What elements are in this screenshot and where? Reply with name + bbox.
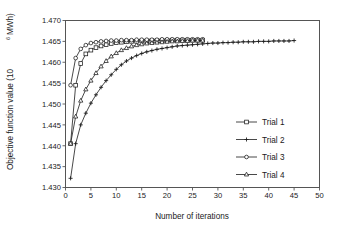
data-point-marker-plus (272, 39, 276, 43)
data-point-marker-plus (170, 45, 174, 49)
data-point-marker-plus (236, 40, 240, 44)
data-point-marker-circle-open (135, 38, 139, 42)
data-point-marker-square-open (89, 48, 93, 52)
data-point-marker-plus (155, 47, 159, 51)
legend-item-trial-1[interactable]: Trial 1 (236, 118, 285, 127)
legend-label: Trial 3 (262, 153, 285, 162)
data-point-marker-plus (216, 41, 220, 45)
x-tick-label: 40 (264, 191, 272, 200)
data-point-marker-triangle-open (124, 46, 128, 50)
legend-label: Trial 4 (262, 171, 285, 180)
x-tick-label: 30 (214, 191, 222, 200)
data-point-marker-square-open (74, 83, 78, 87)
data-point-marker-circle-open (84, 43, 88, 47)
y-tick-label: 1.450 (42, 100, 61, 109)
objective-function-convergence-chart: Objective function value (10 6 MWh) 1.43… (0, 0, 341, 226)
y-axis-title-superscript: 6 (5, 37, 11, 40)
data-point-marker-circle-open (89, 41, 93, 45)
data-point-marker-triangle-open (129, 44, 133, 48)
y-tick-label: 1.465 (42, 37, 61, 46)
x-axis-title: Number of iterations (155, 212, 229, 221)
series-line (71, 41, 295, 179)
chart-figure: Objective function value (10 6 MWh) 1.43… (0, 0, 341, 226)
data-point-marker-plus (221, 41, 225, 45)
data-point-marker-triangle-open (74, 114, 78, 118)
data-point-marker-circle-open (245, 155, 249, 159)
data-point-marker-plus (206, 41, 210, 45)
y-axis-title-tail: MWh) (6, 13, 15, 35)
data-point-marker-plus (241, 40, 245, 44)
y-tick-label: 1.445 (42, 121, 61, 130)
data-point-marker-plus (175, 44, 179, 48)
data-point-marker-circle-open (114, 39, 118, 43)
data-point-marker-triangle-open (119, 48, 123, 52)
data-point-marker-circle-open (94, 40, 98, 44)
data-point-marker-circle-open (69, 83, 73, 87)
data-point-marker-plus (185, 43, 189, 47)
data-point-marker-triangle-open (244, 172, 248, 176)
data-point-marker-plus (74, 142, 78, 146)
data-point-marker-circle-open (130, 38, 134, 42)
data-point-marker-plus (89, 101, 93, 105)
data-point-marker-square-open (79, 62, 83, 66)
data-point-marker-circle-open (120, 38, 124, 42)
data-point-marker-circle-open (109, 39, 113, 43)
data-point-marker-plus (251, 40, 255, 44)
data-point-marker-circle-open (125, 38, 129, 42)
y-axis-title: Objective function value (10 6 MWh) (5, 13, 16, 170)
data-point-marker-plus (246, 40, 250, 44)
data-point-marker-plus (180, 44, 184, 48)
data-point-marker-square-open (84, 52, 88, 56)
y-tick-label: 1.455 (42, 79, 61, 88)
data-point-marker-plus (79, 123, 83, 127)
y-tick-label: 1.470 (42, 16, 61, 25)
x-tick-label: 5 (89, 191, 93, 200)
data-point-marker-plus (135, 54, 139, 58)
data-point-marker-plus (190, 43, 194, 47)
data-point-marker-plus (231, 40, 235, 44)
data-point-marker-plus (292, 39, 296, 43)
data-point-marker-triangle-open (79, 98, 83, 102)
data-point-marker-plus (277, 39, 281, 43)
data-point-marker-plus (196, 42, 200, 46)
data-point-marker-plus (282, 39, 286, 43)
x-tick-label: 50 (315, 191, 323, 200)
data-point-marker-plus (211, 41, 215, 45)
data-point-marker-triangle-open (109, 54, 113, 58)
data-point-marker-circle-open (104, 39, 108, 43)
y-tick-label: 1.440 (42, 142, 61, 151)
x-tick-label: 15 (137, 191, 145, 200)
data-point-marker-triangle-open (84, 87, 88, 91)
data-point-marker-plus (262, 39, 266, 43)
y-tick-label: 1.430 (42, 183, 61, 192)
y-tick-label: 1.460 (42, 58, 61, 67)
x-tick-label: 25 (188, 191, 196, 200)
x-tick-label: 35 (239, 191, 247, 200)
legend-item-trial-3[interactable]: Trial 3 (236, 153, 285, 162)
chart-legend: Trial 1Trial 2Trial 3Trial 4 (236, 118, 285, 180)
x-axis-tick-labels: 05101520253035404550 (63, 191, 323, 200)
data-point-marker-plus (165, 46, 169, 50)
data-point-marker-circle-open (79, 47, 83, 51)
data-point-marker-plus (130, 56, 134, 60)
data-point-marker-plus (201, 42, 205, 46)
legend-item-trial-2[interactable]: Trial 2 (236, 136, 285, 145)
y-tick-label: 1.435 (42, 162, 61, 171)
x-tick-label: 20 (163, 191, 171, 200)
data-point-marker-plus (287, 39, 291, 43)
data-point-marker-plus (150, 49, 154, 53)
data-point-marker-plus (140, 51, 144, 55)
x-tick-label: 45 (290, 191, 298, 200)
data-point-marker-plus (69, 176, 73, 180)
data-point-marker-plus (145, 50, 149, 54)
legend-label: Trial 1 (262, 118, 285, 127)
data-point-marker-triangle-open (114, 51, 118, 55)
data-point-marker-circle-open (140, 38, 144, 42)
x-tick-label: 10 (112, 191, 120, 200)
legend-item-trial-4[interactable]: Trial 4 (236, 171, 285, 180)
data-point-marker-plus (244, 137, 248, 141)
x-tick-label: 0 (63, 191, 67, 200)
data-point-marker-circle-open (74, 56, 78, 60)
data-point-marker-square-open (104, 43, 108, 47)
data-point-marker-plus (84, 111, 88, 115)
